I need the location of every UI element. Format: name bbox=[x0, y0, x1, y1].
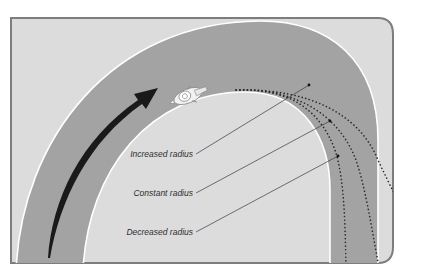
label-decreased-radius: Decreased radius bbox=[126, 227, 193, 237]
label-increased-radius: Increased radius bbox=[130, 149, 194, 159]
cornering-diagram: Increased radius Constant radius Decreas… bbox=[0, 0, 423, 277]
marker-increased bbox=[308, 84, 311, 87]
marker-constant bbox=[329, 120, 332, 123]
label-constant-radius: Constant radius bbox=[133, 188, 193, 198]
marker-decreased bbox=[337, 155, 340, 158]
